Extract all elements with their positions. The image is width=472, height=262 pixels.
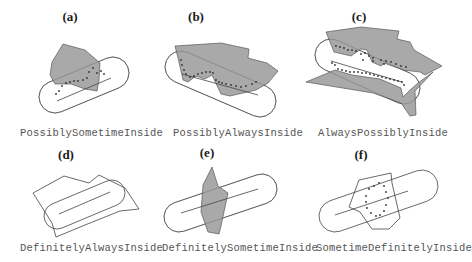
boundary-dot — [403, 84, 405, 86]
boundary-dot — [77, 80, 79, 82]
boundary-dot — [58, 90, 60, 92]
panel-e-title: (e) — [187, 145, 227, 161]
panel-a-caption: PossiblySometimeInside — [20, 127, 163, 139]
boundary-dot — [360, 53, 362, 55]
boundary-dot — [355, 50, 357, 52]
panel-b-graphic — [165, 43, 278, 117]
boundary-dot — [369, 73, 371, 75]
boundary-dot — [357, 71, 359, 73]
boundary-dot — [387, 197, 389, 199]
panel-e-caption: DefinitelySometimeInside — [162, 242, 318, 254]
boundary-dot — [341, 69, 343, 71]
panel-d-title: (d) — [46, 147, 86, 163]
boundary-dot — [351, 49, 353, 51]
boundary-dot — [185, 73, 187, 75]
panel-c-title: (c) — [339, 9, 379, 25]
boundary-dot — [343, 47, 345, 49]
boundary-dot — [205, 71, 207, 73]
boundary-dot — [245, 85, 247, 87]
boundary-dot — [181, 64, 183, 66]
boundary-dot — [353, 71, 355, 73]
boundary-dot — [339, 46, 341, 48]
region-polygon — [306, 70, 433, 116]
panel-f-title: (f) — [341, 147, 381, 163]
boundary-dot — [82, 79, 84, 81]
boundary-dot — [393, 79, 395, 81]
boundary-dot — [385, 60, 387, 62]
panel-b-caption: PossiblyAlwaysInside — [173, 127, 303, 139]
boundary-dot — [364, 52, 366, 54]
boundary-dot — [335, 45, 337, 47]
panel-b-title: (b) — [176, 9, 216, 25]
boundary-dot — [378, 182, 380, 184]
boundary-dot — [69, 81, 71, 83]
boundary-dot — [337, 68, 339, 70]
boundary-dot — [103, 73, 105, 75]
boundary-dot — [390, 61, 392, 63]
boundary-dot — [215, 79, 217, 81]
panel-d-caption: DefinitelyAlwaysInside — [20, 242, 163, 254]
panel-f-caption: SometimeDefinitelyInside — [316, 242, 472, 254]
boundary-dot — [397, 80, 399, 82]
region-polygon — [175, 43, 278, 96]
boundary-dot — [372, 60, 374, 62]
boundary-dot — [365, 72, 367, 74]
boundary-dot — [395, 63, 397, 65]
boundary-dot — [366, 207, 368, 209]
boundary-dot — [379, 214, 381, 216]
boundary-dot — [375, 215, 377, 217]
boundary-dot — [349, 71, 351, 73]
boundary-dot — [183, 69, 185, 71]
boundary-dot — [362, 59, 364, 61]
panel-d-graphic — [33, 175, 139, 237]
boundary-dot — [365, 195, 367, 197]
boundary-dot — [251, 83, 253, 85]
boundary-dot — [209, 71, 211, 73]
boundary-dot — [230, 84, 232, 86]
boundary-dot — [401, 81, 403, 83]
boundary-dot — [405, 66, 407, 68]
boundary-dot — [380, 59, 382, 61]
boundary-dot — [193, 75, 195, 77]
boundary-dot — [86, 77, 88, 79]
region-polygon — [349, 173, 400, 229]
boundary-dot — [385, 77, 387, 79]
boundary-dot — [377, 75, 379, 77]
boundary-dot — [368, 188, 370, 190]
boundary-dot — [189, 76, 191, 78]
boundary-dot — [389, 78, 391, 80]
boundary-dot — [218, 81, 220, 83]
boundary-dot — [55, 93, 57, 95]
boundary-dot — [92, 67, 94, 69]
panel-c-graphic — [306, 27, 442, 116]
boundary-dot — [373, 74, 375, 76]
boundary-dot — [212, 72, 214, 74]
boundary-dot — [347, 49, 349, 51]
boundary-dot — [361, 72, 363, 74]
panel-e-graphic — [164, 167, 277, 234]
boundary-dot — [365, 201, 367, 203]
boundary-dot — [381, 76, 383, 78]
boundary-dot — [88, 71, 90, 73]
boundary-dot — [240, 86, 242, 88]
boundary-dot — [385, 204, 387, 206]
boundary-dot — [100, 70, 102, 72]
panel-c-caption: AlwaysPossiblyInside — [318, 127, 448, 139]
boundary-dot — [370, 212, 372, 214]
boundary-dot — [383, 63, 385, 65]
boundary-dot — [73, 80, 75, 82]
boundary-dot — [383, 210, 385, 212]
boundary-dot — [65, 82, 67, 84]
panel-a-title: (a) — [50, 9, 90, 25]
boundary-dot — [372, 57, 374, 59]
boundary-dot — [197, 73, 199, 75]
boundary-dot — [368, 55, 370, 57]
boundary-dot — [96, 72, 98, 74]
panel-a-graphic — [39, 44, 129, 113]
boundary-dot — [255, 81, 257, 83]
boundary-dot — [400, 65, 402, 67]
boundary-dot — [383, 185, 385, 187]
region-polygon — [326, 27, 442, 75]
trajectory-capsule — [44, 180, 125, 229]
boundary-dot — [225, 83, 227, 85]
